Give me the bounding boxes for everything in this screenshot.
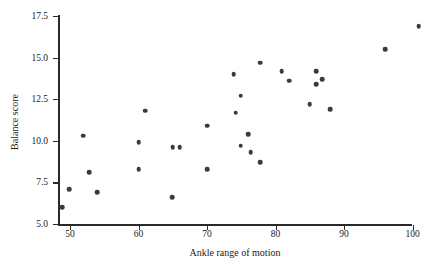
y-tick-mark [53,224,58,225]
plot-area: 50607080901005.07.510.012.515.017.5 Ankl… [0,0,424,267]
y-tick-mark [53,16,58,17]
y-tick-mark [53,182,58,183]
data-point [328,107,333,112]
x-tick-label: 50 [65,229,75,239]
data-point [246,132,251,137]
data-point [238,94,243,99]
y-axis-title: Balance score [9,94,20,150]
data-point [249,150,254,155]
y-tick-label: 10.0 [31,136,48,146]
y-tick-mark [53,99,58,100]
data-point [314,69,319,74]
data-point [287,79,292,84]
y-tick-mark [53,58,58,59]
data-point [177,145,182,150]
y-tick-mark [53,141,58,142]
data-point [170,195,175,200]
data-point [205,124,210,129]
scatter-chart: 50607080901005.07.510.012.515.017.5 Ankl… [0,0,424,267]
y-tick-label: 12.5 [31,94,48,104]
data-point [258,160,263,165]
y-tick-label: 7.5 [36,177,48,187]
data-point [170,145,175,150]
y-axis-line [58,15,60,225]
data-point [95,190,100,195]
data-point [60,205,65,210]
x-tick-label: 80 [271,229,281,239]
y-tick-label: 15.0 [31,53,48,63]
data-point [307,102,312,107]
data-point [233,110,238,115]
y-tick-label: 17.5 [31,11,48,21]
x-tick-label: 100 [405,229,419,239]
x-tick-label: 60 [134,229,144,239]
data-point [258,60,263,65]
data-point [136,140,141,145]
x-axis-line [58,224,412,226]
data-point [231,72,236,77]
x-tick-label: 90 [339,229,349,239]
data-point [136,167,141,172]
y-tick-label: 5.0 [36,219,48,229]
data-point [87,170,92,175]
data-point [320,77,325,82]
data-point [416,24,421,29]
x-tick-label: 70 [202,229,212,239]
data-point [383,47,388,52]
data-point [205,167,210,172]
data-point [81,134,86,139]
data-point [238,143,243,148]
data-point [143,109,148,114]
data-point [67,187,72,192]
x-axis-title: Ankle range of motion [190,247,281,258]
data-point [279,69,284,74]
data-point [314,82,319,87]
